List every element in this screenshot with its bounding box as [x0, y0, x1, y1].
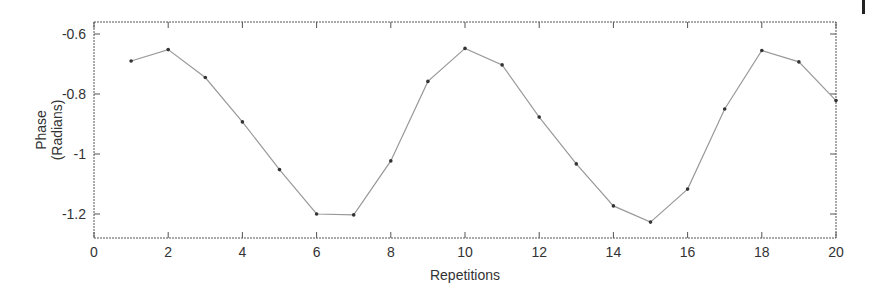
x-tick-label: 14 [606, 244, 622, 260]
data-point [352, 213, 356, 217]
x-tick-label: 0 [90, 244, 98, 260]
data-point [723, 107, 727, 111]
corner-mark [862, 0, 865, 14]
data-point [834, 99, 838, 103]
data-series [129, 47, 838, 224]
y-tick-label: -0.6 [62, 26, 86, 42]
x-tick-label: 4 [239, 244, 247, 260]
data-point [686, 187, 690, 191]
x-tick-label: 16 [680, 244, 696, 260]
data-point [500, 63, 504, 67]
x-tick-label: 2 [164, 244, 172, 260]
y-tick-label: -0.8 [62, 86, 86, 102]
plot-frame [94, 22, 836, 238]
x-tick-label: 6 [313, 244, 321, 260]
data-point [612, 204, 616, 208]
data-point [241, 120, 245, 124]
y-tick-label: -1.2 [62, 206, 86, 222]
data-point [389, 159, 393, 163]
x-tick-label: 20 [828, 244, 844, 260]
x-axis-title: Repetitions [430, 267, 500, 283]
data-point [315, 212, 319, 216]
data-point [278, 168, 282, 172]
x-axis: 02468101214161820 [90, 22, 844, 260]
line-chart: 02468101214161820 -0.6-0.8-1-1.2 Repetit… [0, 0, 872, 300]
data-point [204, 76, 208, 80]
data-point [575, 162, 579, 166]
data-point [426, 80, 430, 84]
data-point [129, 59, 133, 63]
x-tick-label: 12 [531, 244, 547, 260]
y-tick-label: -1 [74, 146, 87, 162]
data-point [760, 49, 764, 53]
y-axis-title-line1: Phase [33, 110, 49, 150]
data-point [166, 48, 170, 52]
series-line [131, 48, 836, 222]
data-point [649, 220, 653, 224]
data-point [797, 60, 801, 64]
data-point [463, 47, 467, 51]
y-axis-title-line2: (Radians) [49, 100, 65, 161]
x-tick-label: 10 [457, 244, 473, 260]
data-point [537, 115, 541, 119]
y-axis-title: Phase (Radians) [33, 100, 65, 161]
x-tick-label: 8 [387, 244, 395, 260]
y-axis: -0.6-0.8-1-1.2 [62, 26, 836, 222]
x-tick-label: 18 [754, 244, 770, 260]
